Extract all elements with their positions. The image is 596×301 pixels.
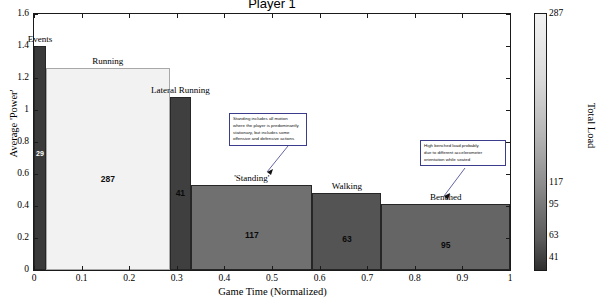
x-axis-tick bbox=[129, 14, 130, 18]
bar-walking: 63 bbox=[312, 193, 381, 270]
x-tick-label: 0.9 bbox=[442, 273, 482, 283]
bar-benched: 95 bbox=[381, 204, 510, 270]
y-axis-tick bbox=[34, 14, 38, 15]
y-axis-tick bbox=[506, 142, 510, 143]
bar-standing: 117 bbox=[191, 185, 312, 270]
y-tick-label: 0.4 bbox=[0, 200, 29, 210]
x-tick-label: 0.7 bbox=[347, 273, 387, 283]
x-axis-tick bbox=[272, 266, 273, 270]
bar-category-label: 'Standing' bbox=[234, 173, 269, 183]
x-axis-tick bbox=[177, 14, 178, 18]
colorbar-tick-label: 95 bbox=[549, 199, 559, 209]
y-axis-tick bbox=[34, 174, 38, 175]
x-tick-label: 0.5 bbox=[252, 273, 292, 283]
x-axis-tick bbox=[320, 266, 321, 270]
y-axis-tick bbox=[34, 110, 38, 111]
y-axis-tick bbox=[506, 78, 510, 79]
x-axis-tick bbox=[177, 266, 178, 270]
annotation-line: Standing includes all motion bbox=[233, 116, 303, 123]
annotation-benched-note: High benched load probablydue to differe… bbox=[420, 140, 506, 166]
y-axis-tick bbox=[506, 270, 510, 271]
y-axis-tick bbox=[34, 46, 38, 47]
x-axis-tick bbox=[510, 266, 511, 270]
y-axis-tick bbox=[506, 110, 510, 111]
y-tick-label: 0 bbox=[0, 264, 29, 274]
x-axis-tick bbox=[224, 14, 225, 18]
x-axis-tick bbox=[82, 266, 83, 270]
annotation-line: High benched load probably bbox=[424, 143, 502, 150]
x-axis-tick bbox=[415, 14, 416, 18]
y-axis-tick bbox=[506, 14, 510, 15]
x-tick-label: 0.2 bbox=[109, 273, 149, 283]
annotation-line: offensive and defensive actions bbox=[233, 136, 303, 143]
x-axis-tick bbox=[224, 266, 225, 270]
chart-figure: Player 1 29287411176395 EventsRunningLat… bbox=[0, 0, 596, 301]
x-axis-tick bbox=[272, 14, 273, 18]
y-tick-label: 0.2 bbox=[0, 232, 29, 242]
x-axis-tick bbox=[367, 266, 368, 270]
annotation-line: where the player is predominantly bbox=[233, 123, 303, 130]
y-axis-tick bbox=[34, 78, 38, 79]
y-axis-tick bbox=[34, 142, 38, 143]
x-axis-title: Game Time (Normalized) bbox=[0, 286, 545, 297]
x-axis-tick bbox=[462, 266, 463, 270]
colorbar-tick-label: 117 bbox=[549, 177, 563, 187]
colorbar bbox=[534, 13, 547, 271]
y-axis-tick bbox=[506, 46, 510, 47]
y-axis-title: Average 'Power' bbox=[8, 59, 19, 189]
x-tick-label: 0.8 bbox=[395, 273, 435, 283]
x-axis-tick bbox=[510, 14, 511, 18]
x-tick-label: 0.1 bbox=[62, 273, 102, 283]
bar-value-label: 41 bbox=[171, 188, 190, 198]
colorbar-tick-label: 287 bbox=[549, 8, 563, 18]
x-axis-tick bbox=[367, 14, 368, 18]
colorbar-tick-label: 41 bbox=[549, 252, 559, 262]
chart-title: Player 1 bbox=[33, 0, 511, 11]
x-tick-label: 1 bbox=[490, 273, 530, 283]
bar-category-label: Walking bbox=[332, 181, 362, 191]
x-axis-tick bbox=[415, 266, 416, 270]
bar-events: 29 bbox=[34, 46, 46, 270]
annotation-line: due to different accelerometer bbox=[424, 150, 502, 157]
bar-category-label: Benched bbox=[430, 192, 462, 202]
annotation-line: orientation while seated bbox=[424, 157, 502, 164]
bar-value-label: 29 bbox=[35, 150, 45, 157]
x-axis-tick bbox=[129, 266, 130, 270]
y-axis-tick bbox=[34, 238, 38, 239]
y-tick-label: 1.6 bbox=[0, 8, 29, 18]
y-axis-tick bbox=[506, 206, 510, 207]
bar-category-label: Events bbox=[28, 34, 53, 44]
bar-category-label: Lateral Running bbox=[151, 85, 210, 95]
bar-value-label: 287 bbox=[47, 174, 169, 184]
x-tick-label: 0.3 bbox=[157, 273, 197, 283]
x-axis-tick bbox=[320, 14, 321, 18]
bar-value-label: 117 bbox=[192, 230, 311, 240]
x-tick-label: 0.6 bbox=[300, 273, 340, 283]
y-axis-tick bbox=[34, 206, 38, 207]
x-axis-tick bbox=[82, 14, 83, 18]
annotation-line: stationary, but includes some bbox=[233, 130, 303, 137]
bar-lateralrunning: 41 bbox=[170, 97, 191, 270]
y-tick-label: 1.4 bbox=[0, 40, 29, 50]
x-tick-label: 0 bbox=[14, 273, 54, 283]
colorbar-tick-label: 63 bbox=[549, 230, 559, 240]
bar-value-label: 95 bbox=[382, 240, 509, 250]
x-axis-tick bbox=[462, 14, 463, 18]
y-axis-tick bbox=[506, 174, 510, 175]
x-tick-label: 0.4 bbox=[204, 273, 244, 283]
colorbar-title: Total Load bbox=[586, 66, 596, 186]
bar-running: 287 bbox=[46, 68, 170, 270]
bar-category-label: Running bbox=[92, 56, 123, 66]
y-axis-tick bbox=[34, 270, 38, 271]
annotation-standing-note: Standing includes all motionwhere the pl… bbox=[229, 113, 307, 146]
bar-value-label: 63 bbox=[313, 234, 380, 244]
y-axis-tick bbox=[506, 238, 510, 239]
